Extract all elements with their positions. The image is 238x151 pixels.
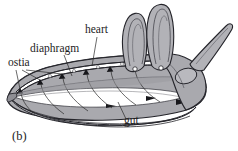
antenna-left xyxy=(123,13,147,71)
label-ostia: ostia xyxy=(8,56,30,68)
antenna-right-base-node xyxy=(159,66,163,70)
antenna-right-outline xyxy=(147,4,174,70)
antenna-left-base-node xyxy=(133,67,137,71)
antenna-left-outline xyxy=(123,13,147,71)
label-diaphragm: diaphragm xyxy=(30,42,79,55)
label-heart: heart xyxy=(85,23,109,35)
figure-panel: ostia diaphragm heart gut (b) xyxy=(0,0,238,151)
insect-circulatory-diagram: ostia diaphragm heart gut (b) xyxy=(0,0,238,151)
label-gut: gut xyxy=(124,114,140,127)
panel-caption: (b) xyxy=(12,129,27,143)
posterior-appendage xyxy=(190,24,233,71)
antenna-right xyxy=(147,4,174,70)
